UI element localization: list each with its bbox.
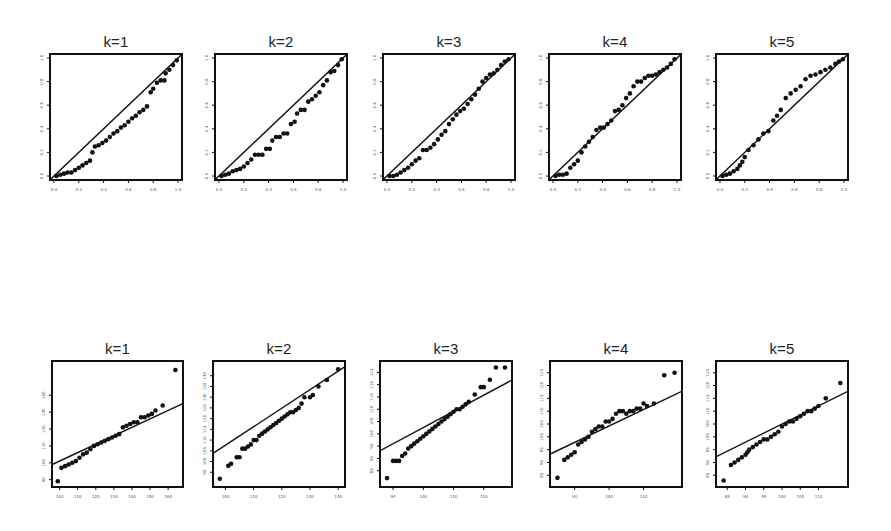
x-tick-label: 0.8 (150, 187, 157, 192)
data-point (302, 395, 307, 400)
y-tick-label: 0.8 (705, 78, 710, 85)
data-point (499, 63, 504, 68)
y-tick-label: 90 (41, 477, 46, 483)
y-tick-label: 105 (369, 417, 374, 425)
data-point (296, 406, 301, 411)
data-point (108, 135, 113, 140)
data-point (153, 408, 158, 413)
x-tick-label: 0.4 (433, 187, 440, 192)
y-tick-label: 110 (539, 407, 544, 415)
y-tick-label: 115 (539, 394, 544, 402)
y-tick-label: 120 (539, 381, 544, 389)
data-point (605, 122, 610, 127)
y-tick-label: 135 (202, 382, 207, 390)
data-point (628, 91, 633, 96)
data-point (336, 367, 341, 372)
data-point (439, 132, 444, 137)
y-tick-label: 110 (705, 407, 710, 415)
data-point (798, 84, 803, 89)
data-point (776, 429, 781, 434)
data-point (462, 106, 467, 111)
plot-panel-top-k2: k=20.00.20.40.60.81.00.00.20.40.60.81.0 (195, 32, 367, 208)
data-point (173, 368, 178, 373)
y-tick-label: 115 (202, 425, 207, 433)
data-point (117, 432, 122, 437)
data-point (494, 365, 499, 370)
y-tick-label: 125 (202, 404, 207, 412)
data-point (576, 158, 581, 163)
x-tick-label: 0.8 (483, 187, 490, 192)
y-tick-label: 0.8 (538, 78, 543, 85)
data-point (564, 171, 569, 176)
x-tick-label: 0.0 (51, 187, 58, 192)
data-point (721, 478, 726, 483)
data-point (160, 403, 165, 408)
x-tick-label: 0.6 (624, 187, 631, 192)
plot-panel-top-k5: k=50.00.20.40.60.81.00.00.20.40.60.81.0 (696, 32, 868, 208)
y-tick-label: 0.8 (372, 78, 377, 85)
x-tick-label: 1.0 (175, 187, 182, 192)
y-tick-label: 0.8 (39, 78, 44, 85)
data-point (229, 461, 234, 466)
y-tick-label: 0.2 (204, 149, 209, 156)
y-tick-label: 0.8 (204, 78, 209, 85)
data-point (410, 162, 415, 167)
y-tick-label: 120 (202, 414, 207, 422)
data-point (397, 459, 402, 464)
reference-line (702, 384, 862, 464)
y-tick-label: 115 (369, 393, 374, 401)
data-point (167, 68, 172, 73)
data-point (249, 157, 254, 162)
data-point (151, 86, 156, 91)
data-point (325, 378, 330, 383)
scatter-plot: 0.00.20.40.60.81.00.00.20.40.60.81.0 (696, 32, 868, 208)
data-point (620, 103, 625, 108)
x-tick-label: 105 (796, 494, 804, 499)
data-point (778, 108, 783, 113)
x-tick-label: 130 (306, 494, 314, 499)
x-tick-label: 0.8 (816, 187, 823, 192)
data-point (88, 158, 93, 163)
x-tick-label: 100 (419, 494, 427, 499)
data-point (268, 147, 273, 152)
x-tick-label: 110 (74, 494, 82, 499)
data-point (447, 122, 452, 127)
scatter-plot: 0.00.20.40.60.81.00.00.20.40.60.81.0 (195, 32, 367, 208)
data-point (145, 104, 150, 109)
data-point (555, 476, 560, 481)
data-point (260, 152, 265, 157)
y-tick-label: 125 (369, 368, 374, 376)
x-tick-label: 0.0 (216, 187, 223, 192)
data-point (473, 92, 478, 97)
data-point (174, 58, 179, 63)
x-tick-label: 120 (278, 494, 286, 499)
x-tick-label: 90 (391, 494, 397, 499)
data-point (495, 68, 500, 73)
data-point (295, 111, 300, 116)
y-tick-label: 95 (369, 443, 374, 449)
scatter-plot: 10011012013014015016090100110120130140 (32, 339, 203, 515)
data-point (662, 373, 667, 378)
data-point (665, 65, 670, 70)
data-point (587, 139, 592, 144)
y-tick-label: 0.2 (39, 149, 44, 156)
data-point (310, 97, 315, 102)
data-point (237, 455, 242, 460)
data-point (645, 404, 650, 409)
data-point (465, 102, 470, 107)
y-tick-label: 0.4 (705, 125, 710, 132)
data-point (756, 137, 761, 142)
x-tick-label: 110 (815, 494, 823, 499)
scatter-plot: 859095100105110859095100105110115120125 (696, 339, 868, 515)
reference-line (537, 385, 695, 460)
data-point (586, 435, 591, 440)
data-point (339, 57, 344, 62)
data-point (840, 57, 845, 62)
y-tick-label: 0.6 (372, 102, 377, 109)
data-point (484, 76, 489, 81)
data-point (245, 161, 250, 166)
x-tick-label: 140 (128, 494, 136, 499)
x-tick-label: 0.4 (265, 187, 272, 192)
scatter-plot: 90100110859095100105110115120125 (530, 339, 702, 515)
data-point (480, 79, 485, 84)
